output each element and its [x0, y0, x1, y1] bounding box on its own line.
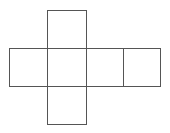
cube-net-diagram — [0, 0, 170, 133]
face-right — [87, 49, 124, 87]
face-left — [10, 49, 48, 87]
face-center — [48, 49, 87, 87]
face-top — [48, 11, 87, 49]
face-bottom — [48, 87, 87, 125]
face-far-right — [124, 49, 161, 87]
